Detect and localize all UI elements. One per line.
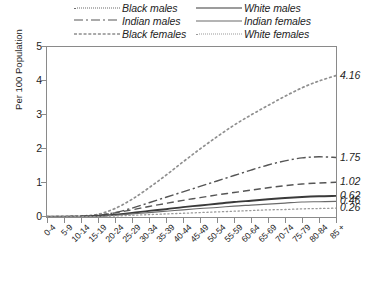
- series-lines: [47, 47, 336, 217]
- line-style-dash-dot-icon: [74, 19, 120, 22]
- legend-label-indian-males: Indian males: [122, 15, 196, 27]
- endpoint-label-indian-males: 1.75: [340, 152, 360, 162]
- line-style-dashed-icon: [74, 33, 120, 34]
- legend-label-black-females: Black females: [122, 28, 196, 40]
- legend-line-sample-white-males: [196, 2, 242, 14]
- endpoint-label-white-females: 0.26: [340, 202, 360, 212]
- line-style-dotted-coarse-icon: [74, 7, 120, 8]
- line-style-solid-thick-icon: [196, 7, 242, 8]
- legend-line-sample-indian-males: [74, 15, 120, 27]
- series-line-indian-males: [47, 157, 336, 217]
- x-tick-label: 0-4: [43, 223, 58, 238]
- x-axis-tick-labels: 0-45-910-1415-1920-2425-2930-3435-3940-4…: [46, 223, 346, 271]
- legend-line-sample-indian-females: [196, 15, 242, 27]
- endpoint-label-black-males: 4.16: [340, 70, 360, 80]
- endpoint-value-labels: 4.161.751.020.620.460.26: [340, 40, 388, 225]
- legend-label-white-females: White females: [244, 28, 324, 40]
- line-style-solid-thin-icon: [196, 20, 242, 21]
- series-line-black-females: [47, 182, 336, 216]
- legend-line-sample-black-males: [74, 2, 120, 14]
- x-tick-label: 85 +: [329, 223, 347, 241]
- chart-root: Black malesWhite malesIndian malesIndian…: [0, 0, 390, 285]
- legend-line-sample-black-females: [74, 28, 120, 40]
- line-style-dotted-fine-icon: [196, 33, 242, 34]
- endpoint-label-black-females: 1.02: [340, 176, 360, 186]
- plot-area: [46, 46, 337, 218]
- legend-line-sample-white-females: [196, 28, 242, 40]
- x-tick-label: 80-84: [308, 223, 329, 244]
- legend-label-indian-females: Indian females: [244, 15, 324, 27]
- legend-label-white-males: White males: [244, 2, 324, 14]
- series-line-black-males: [47, 76, 336, 217]
- chart-legend: Black malesWhite malesIndian malesIndian…: [74, 1, 324, 41]
- y-axis-title: Per 100 Population: [13, 0, 24, 140]
- legend-label-black-males: Black males: [122, 2, 196, 14]
